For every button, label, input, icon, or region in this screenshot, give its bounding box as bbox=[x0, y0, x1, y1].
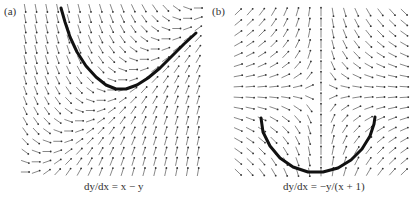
slope-field-figure bbox=[0, 0, 411, 200]
caption-b: dy/dx = −y/(x + 1) bbox=[283, 180, 365, 192]
panel-label-a: (a) bbox=[4, 5, 16, 17]
panel-label-b: (b) bbox=[212, 5, 225, 17]
slope-field-b bbox=[234, 7, 409, 177]
solution-curve-b bbox=[261, 117, 375, 172]
slope-field-a bbox=[21, 4, 203, 176]
caption-a: dy/dx = x − y bbox=[84, 180, 143, 192]
solution-curve-a bbox=[61, 8, 196, 89]
